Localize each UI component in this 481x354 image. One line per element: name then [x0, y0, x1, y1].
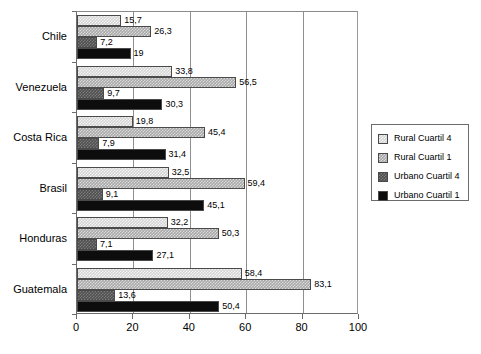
bar[interactable] — [77, 138, 99, 149]
bar[interactable] — [77, 15, 121, 26]
category-label-guatemala: Guatemala — [0, 283, 67, 295]
bar[interactable] — [77, 189, 103, 200]
category-label-honduras: Honduras — [0, 232, 67, 244]
x-tick-label: 80 — [282, 321, 322, 334]
bar-value-label: 19 — [131, 47, 144, 58]
y-tick — [72, 11, 76, 12]
y-tick — [72, 163, 76, 164]
legend-item[interactable]: Rural Cuartil 4 — [378, 133, 452, 144]
bar-row: 9,7 — [77, 88, 357, 99]
bar-row: 31,4 — [77, 149, 357, 160]
legend-label: Urbano Cuartil 4 — [394, 171, 460, 182]
bar-row: 32,5 — [77, 167, 357, 178]
x-tick-20 — [132, 314, 133, 319]
bar-value-label: 33,8 — [172, 65, 193, 76]
bar[interactable] — [77, 149, 166, 160]
bar-group: 32,250,37,127,1 — [77, 214, 357, 265]
bar-row: 59,4 — [77, 178, 357, 189]
bar[interactable] — [77, 217, 168, 228]
bar-value-label: 7,9 — [99, 137, 115, 148]
y-tick — [72, 213, 76, 214]
legend-swatch-icon — [378, 134, 388, 144]
bar-value-label: 50,3 — [219, 227, 240, 238]
x-tick-60 — [245, 314, 246, 319]
bar[interactable] — [77, 127, 205, 138]
legend-swatch-icon — [378, 153, 388, 163]
bar-value-label: 58,4 — [242, 267, 263, 278]
bar[interactable] — [77, 239, 97, 250]
bar-value-label: 26,3 — [151, 25, 172, 36]
bar[interactable] — [77, 88, 104, 99]
x-tick-label: 40 — [169, 321, 209, 334]
category-label-brasil: Brasil — [0, 182, 67, 194]
bar-value-label: 31,4 — [166, 148, 187, 159]
bar-value-label: 19,8 — [133, 115, 154, 126]
bar-value-label: 7,2 — [97, 36, 113, 47]
bar-row: 50,3 — [77, 228, 357, 239]
bar-group: 58,483,113,650,4 — [77, 265, 357, 316]
bar[interactable] — [77, 48, 131, 59]
bar-row: 45,4 — [77, 127, 357, 138]
legend-swatch-icon — [378, 191, 388, 201]
bar-group: 32,559,49,145,1 — [77, 164, 357, 215]
bar[interactable] — [77, 200, 204, 211]
bar-value-label: 45,4 — [205, 126, 226, 137]
bar-row: 45,1 — [77, 200, 357, 211]
legend-item[interactable]: Urbano Cuartil 1 — [378, 190, 460, 201]
bar-row: 33,8 — [77, 66, 357, 77]
bar[interactable] — [77, 250, 153, 261]
bar-chart: 15,726,37,21933,856,59,730,319,845,47,93… — [0, 0, 481, 354]
bar-row: 7,2 — [77, 37, 357, 48]
bar[interactable] — [77, 167, 169, 178]
legend-item[interactable]: Rural Cuartil 1 — [378, 152, 452, 163]
y-tick — [72, 112, 76, 113]
bar-group: 19,845,47,931,4 — [77, 113, 357, 164]
bar[interactable] — [77, 99, 162, 110]
x-tick-label: 20 — [112, 321, 152, 334]
x-tick-40 — [189, 314, 190, 319]
bar[interactable] — [77, 116, 133, 127]
bar-row: 19 — [77, 48, 357, 59]
bar[interactable] — [77, 77, 236, 88]
x-tick-label: 0 — [56, 321, 96, 334]
bar-value-label: 30,3 — [162, 98, 183, 109]
bar-value-label: 83,1 — [311, 278, 332, 289]
x-tick-100 — [358, 314, 359, 319]
bar-row: 32,2 — [77, 217, 357, 228]
x-tick-0 — [76, 314, 77, 319]
bar-value-label: 9,7 — [104, 87, 120, 98]
bar-value-label: 7,1 — [97, 238, 113, 249]
legend-item[interactable]: Urbano Cuartil 4 — [378, 171, 460, 182]
bar-value-label: 32,5 — [169, 166, 190, 177]
legend-label: Urbano Cuartil 1 — [394, 190, 460, 201]
bar-group: 15,726,37,219 — [77, 12, 357, 63]
bar[interactable] — [77, 290, 115, 301]
legend-swatch-icon — [378, 172, 388, 182]
bar[interactable] — [77, 268, 242, 279]
bar-value-label: 45,1 — [204, 199, 225, 210]
bar-value-label: 15,7 — [121, 14, 142, 25]
bar-value-label: 13,6 — [115, 289, 136, 300]
x-tick-80 — [302, 314, 303, 319]
bar[interactable] — [77, 279, 311, 290]
bar[interactable] — [77, 26, 151, 37]
bar-value-label: 50,4 — [219, 300, 240, 311]
bar-value-label: 32,2 — [168, 216, 189, 227]
plot-area: 15,726,37,21933,856,59,730,319,845,47,93… — [76, 11, 358, 314]
bar-value-label: 9,1 — [103, 188, 119, 199]
bar[interactable] — [77, 301, 219, 312]
bar-group: 33,856,59,730,3 — [77, 63, 357, 114]
category-label-venezuela: Venezuela — [0, 81, 67, 93]
bar[interactable] — [77, 37, 97, 48]
legend-label: Rural Cuartil 1 — [394, 152, 452, 163]
bar-row: 50,4 — [77, 301, 357, 312]
legend-label: Rural Cuartil 4 — [394, 133, 452, 144]
bar-row: 26,3 — [77, 26, 357, 37]
y-tick — [72, 62, 76, 63]
bar-row: 13,6 — [77, 290, 357, 301]
x-tick-label: 100 — [338, 321, 378, 334]
bar-row: 27,1 — [77, 250, 357, 261]
bar[interactable] — [77, 66, 172, 77]
bar-value-label: 27,1 — [153, 249, 174, 260]
bar-value-label: 59,4 — [245, 177, 266, 188]
